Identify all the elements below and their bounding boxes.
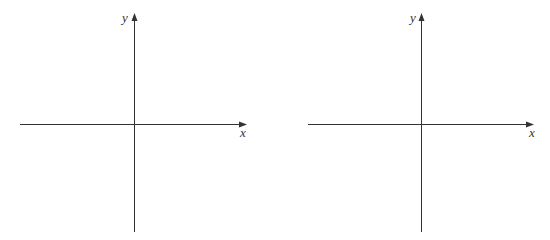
- left-y-label: y: [120, 10, 128, 25]
- left-axes: x y: [20, 10, 246, 232]
- left-x-label: x: [239, 125, 246, 140]
- right-axes: x y: [308, 10, 535, 232]
- right-y-label: y: [408, 10, 416, 25]
- coordinate-diagrams: x y x y: [0, 0, 550, 240]
- right-x-label: x: [528, 125, 535, 140]
